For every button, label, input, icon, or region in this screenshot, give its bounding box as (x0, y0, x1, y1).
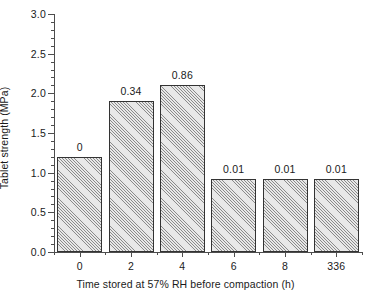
bar (211, 179, 256, 252)
x-axis-title: Time stored at 57% RH before compaction … (0, 278, 371, 290)
y-tick-major (48, 212, 54, 213)
bar (109, 101, 154, 252)
y-tick-major (48, 14, 54, 15)
x-tick-label: 2 (128, 260, 134, 272)
y-tick-minor (51, 46, 54, 47)
bar-value-label: 0.01 (326, 163, 347, 175)
y-tick-minor (51, 101, 54, 102)
bar-value-label: 0 (77, 141, 83, 153)
y-tick-minor (51, 181, 54, 182)
y-tick-minor (51, 189, 54, 190)
bar-value-label: 0.86 (172, 69, 193, 81)
bar-chart-figure: 0.00.51.01.52.02.53.0 02468336 00.340.86… (0, 0, 371, 300)
y-tick-minor (51, 157, 54, 158)
y-tick-minor (51, 149, 54, 150)
x-tick-minor (54, 252, 55, 255)
x-tick-label: 6 (231, 260, 237, 272)
y-tick-minor (51, 165, 54, 166)
y-tick-minor (51, 38, 54, 39)
x-tick-label: 336 (327, 260, 345, 272)
y-tick-major (48, 173, 54, 174)
y-tick-label: 0.5 (31, 206, 46, 218)
y-tick-label: 2.5 (31, 48, 46, 60)
x-tick-minor (105, 252, 106, 255)
x-tick-minor (208, 252, 209, 255)
x-tick-major (182, 252, 183, 257)
y-tick-minor (51, 204, 54, 205)
y-tick-major (48, 54, 54, 55)
y-tick-minor (51, 30, 54, 31)
x-tick-minor (157, 252, 158, 255)
y-tick-minor (51, 62, 54, 63)
bar-value-label: 0.01 (274, 163, 295, 175)
y-tick-major (48, 133, 54, 134)
x-tick-major (234, 252, 235, 257)
y-tick-minor (51, 244, 54, 245)
y-tick-minor (51, 70, 54, 71)
x-tick-minor (311, 252, 312, 255)
x-tick-label: 8 (282, 260, 288, 272)
x-tick-major (131, 252, 132, 257)
y-tick-minor (51, 117, 54, 118)
y-tick-label: 0.0 (31, 246, 46, 258)
y-tick-label: 2.0 (31, 87, 46, 99)
y-tick-minor (51, 77, 54, 78)
y-tick-minor (51, 236, 54, 237)
y-tick-minor (51, 85, 54, 86)
y-tick-label: 3.0 (31, 8, 46, 20)
y-tick-minor (51, 125, 54, 126)
bar-value-label: 0.34 (120, 85, 141, 97)
bar (160, 85, 205, 252)
x-tick-minor (259, 252, 260, 255)
y-tick-minor (51, 196, 54, 197)
y-tick-label: 1.5 (31, 127, 46, 139)
x-tick-major (80, 252, 81, 257)
y-axis-title-text: Tablet strength (MPa) (0, 48, 10, 228)
y-tick-minor (51, 141, 54, 142)
x-tick-label: 4 (179, 260, 185, 272)
y-tick-label: 1.0 (31, 167, 46, 179)
y-tick-major (48, 93, 54, 94)
y-tick-minor (51, 220, 54, 221)
bar (314, 179, 359, 252)
y-tick-minor (51, 109, 54, 110)
plot-area: 0.00.51.01.52.02.53.0 02468336 00.340.86… (54, 14, 362, 252)
y-axis-title: Tablet strength (MPa) (0, 0, 10, 48)
x-tick-major (336, 252, 337, 257)
x-tick-major (285, 252, 286, 257)
x-tick-minor (362, 252, 363, 255)
y-tick-minor (51, 228, 54, 229)
bar-value-label: 0.01 (223, 163, 244, 175)
bar (57, 157, 102, 252)
x-tick-label: 0 (77, 260, 83, 272)
y-tick-minor (51, 22, 54, 23)
bar (263, 179, 308, 252)
